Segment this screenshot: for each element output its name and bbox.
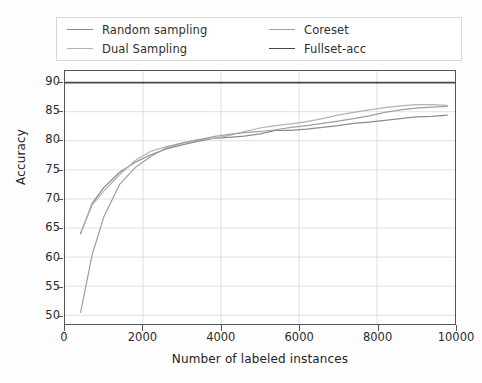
y-tick-mark xyxy=(57,316,63,317)
legend-label-random-sampling: Random sampling xyxy=(102,24,207,36)
y-tick-label: 65 xyxy=(26,222,60,234)
y-tick-label: 75 xyxy=(26,164,60,176)
x-tick-mark xyxy=(64,325,65,331)
legend-line-swatch-dual-sampling xyxy=(67,48,93,49)
x-axis-title: Number of labeled instances xyxy=(64,352,456,366)
y-tick-mark xyxy=(57,170,63,171)
y-axis-title: Accuracy xyxy=(14,92,28,222)
x-tick-label: 2000 xyxy=(107,332,177,344)
y-tick-label: 85 xyxy=(26,105,60,117)
x-tick-mark xyxy=(378,325,379,331)
legend-line-swatch-fullset-acc xyxy=(269,48,295,49)
chart-figure: Random sampling Coreset Dual Sampling Fu… xyxy=(0,0,482,383)
x-tick-label: 10000 xyxy=(421,332,482,344)
y-tick-label: 90 xyxy=(26,76,60,88)
x-tick-label: 0 xyxy=(29,332,99,344)
legend-label-coreset: Coreset xyxy=(304,24,349,36)
y-tick-mark xyxy=(57,199,63,200)
x-tick-label: 6000 xyxy=(264,332,334,344)
legend-item-fullset-acc: Fullset-acc xyxy=(259,40,461,58)
y-tick-label: 60 xyxy=(26,252,60,264)
legend-line-swatch-coreset xyxy=(269,29,295,30)
y-tick-label: 50 xyxy=(26,310,60,322)
x-tick-mark xyxy=(142,325,143,331)
chart-legend: Random sampling Coreset Dual Sampling Fu… xyxy=(56,17,462,61)
y-tick-mark xyxy=(57,258,63,259)
x-tick-label: 4000 xyxy=(186,332,256,344)
y-tick-mark xyxy=(57,111,63,112)
y-tick-label: 80 xyxy=(26,134,60,146)
legend-item-random-sampling: Random sampling xyxy=(57,21,259,39)
legend-line-swatch-random-sampling xyxy=(67,29,93,30)
legend-label-dual-sampling: Dual Sampling xyxy=(102,43,187,55)
x-tick-mark xyxy=(456,325,457,331)
x-axis-ticks: 0200040006000800010000 xyxy=(64,332,456,348)
x-tick-mark xyxy=(299,325,300,331)
legend-item-coreset: Coreset xyxy=(259,21,461,39)
x-tick-mark xyxy=(221,325,222,331)
chart-series-lines xyxy=(65,71,455,324)
legend-label-fullset-acc: Fullset-acc xyxy=(304,43,366,55)
y-tick-mark xyxy=(57,228,63,229)
y-tick-mark xyxy=(57,82,63,83)
y-tick-label: 55 xyxy=(26,281,60,293)
y-tick-mark xyxy=(57,287,63,288)
legend-item-dual-sampling: Dual Sampling xyxy=(57,40,259,58)
y-tick-label: 70 xyxy=(26,193,60,205)
plot-area xyxy=(64,70,456,325)
y-tick-mark xyxy=(57,140,63,141)
x-tick-label: 8000 xyxy=(343,332,413,344)
